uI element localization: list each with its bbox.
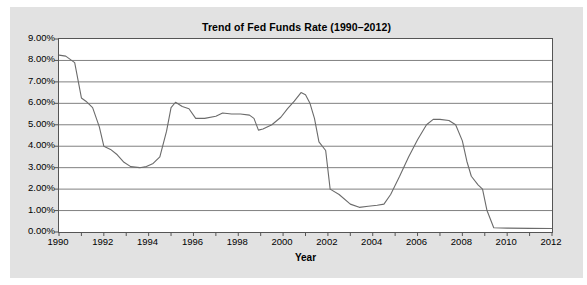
x-tick-label: 2008 <box>441 236 481 247</box>
x-axis-title: Year <box>58 252 553 263</box>
x-tick-label: 2006 <box>397 236 437 247</box>
y-tick-label: 8.00% <box>11 54 55 64</box>
y-tick-label: 0.00% <box>11 226 55 236</box>
x-tick-label: 1998 <box>217 236 257 247</box>
y-tick-label: 1.00% <box>11 205 55 215</box>
y-tick-label: 3.00% <box>11 162 55 172</box>
x-tick-label: 2000 <box>262 236 302 247</box>
y-axis-tick-labels: 0.00%1.00%2.00%3.00%4.00%5.00%6.00%7.00%… <box>10 38 55 233</box>
data-series-group <box>59 55 552 228</box>
chart-plot-svg <box>59 39 552 232</box>
y-tick-label: 6.00% <box>11 97 55 107</box>
x-tick-label: 1996 <box>173 236 213 247</box>
chart-panel: Trend of Fed Funds Rate (1990–2012) 0.00… <box>10 7 583 278</box>
y-tick-label: 9.00% <box>11 33 55 43</box>
x-tick-label: 1992 <box>83 236 123 247</box>
y-tick-label: 2.00% <box>11 183 55 193</box>
chart-title: Trend of Fed Funds Rate (1990–2012) <box>10 21 583 33</box>
x-tick-label: 2004 <box>352 236 392 247</box>
x-tick-label: 1994 <box>128 236 168 247</box>
y-tick-label: 5.00% <box>11 119 55 129</box>
x-tick-label: 2002 <box>307 236 347 247</box>
x-tick-label: 2012 <box>531 236 571 247</box>
gridlines <box>59 60 552 210</box>
series-line-0 <box>59 55 552 228</box>
x-tick-label: 1990 <box>38 236 78 247</box>
plot-area <box>58 38 553 233</box>
y-tick-label: 7.00% <box>11 76 55 86</box>
y-tick-label: 4.00% <box>11 140 55 150</box>
x-axis-tick-labels: 1990199219941996199820002002200420062008… <box>58 236 553 250</box>
x-tick-label: 2010 <box>486 236 526 247</box>
